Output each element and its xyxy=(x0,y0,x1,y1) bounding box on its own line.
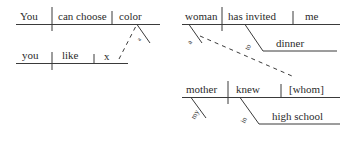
right-sub-verb-label: knew xyxy=(236,84,260,95)
left-main-verb-label: can choose xyxy=(58,11,107,22)
right-preposition-in-object-label: high school xyxy=(272,111,323,122)
right-sub-object-label: [whom] xyxy=(289,84,324,95)
right-sub-subject-label: mother xyxy=(186,84,217,95)
right-main-verb-label: has invited xyxy=(228,11,276,22)
right-preposition-to-object-label: dinner xyxy=(276,38,304,49)
left-main-object-label: color xyxy=(119,11,142,22)
left-sub-verb-label: like xyxy=(62,50,79,61)
left-sub-subject-label: you xyxy=(22,50,39,61)
left-sub-object-label: x xyxy=(104,51,110,62)
right-main-object-label: me xyxy=(305,11,318,22)
diagram-canvas: You can choose color a you like x woman … xyxy=(0,0,349,142)
right-main-subject-label: woman xyxy=(185,11,217,22)
left-relative-dashed-connector xyxy=(119,26,136,59)
left-main-subject-label: You xyxy=(20,11,38,22)
